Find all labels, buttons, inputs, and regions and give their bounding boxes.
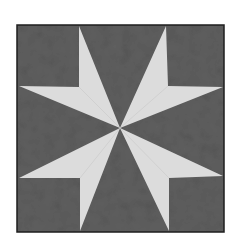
quilt-block-image (0, 0, 240, 252)
quilt-block (17, 25, 224, 232)
